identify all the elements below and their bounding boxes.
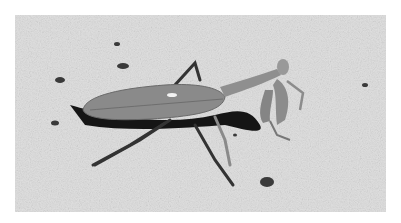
- wing-highlight: [167, 93, 177, 97]
- mantis-head: [277, 59, 289, 75]
- mantis-photo: [15, 15, 386, 212]
- mantis-illustration: [15, 15, 386, 212]
